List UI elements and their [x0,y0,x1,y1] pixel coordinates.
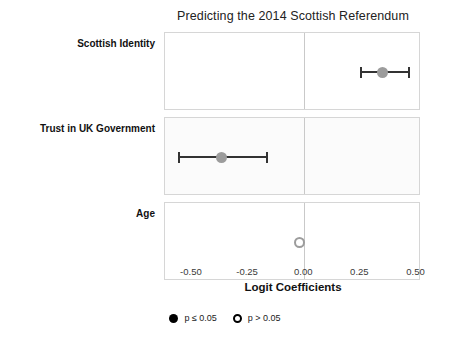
ci-cap-upper [408,67,410,78]
row-label-trust-in-uk-government: Trust in UK Government [0,123,155,134]
panel-scottish-identity [164,32,420,110]
hollow-circle-icon [233,314,242,323]
x-tick-label: -0.25 [236,266,258,277]
panel-trust-in-uk-government [164,117,420,195]
legend-item-significant: p ≤ 0.05 [169,313,216,323]
row-label-age: Age [0,208,155,219]
x-tick-label: 0.50 [406,266,425,277]
estimate-point [377,67,388,78]
estimate-point [294,237,305,248]
zero-reference-line [304,118,305,194]
x-tick-label: 0.00 [294,266,313,277]
legend-label-not-significant: p > 0.05 [248,313,281,323]
legend: p ≤ 0.05 p > 0.05 [0,313,450,323]
filled-circle-icon [169,314,178,323]
plot-panels [164,32,422,264]
chart-root: Predicting the 2014 Scottish Referendum … [0,0,450,352]
legend-item-not-significant: p > 0.05 [233,313,281,323]
legend-label-significant: p ≤ 0.05 [184,313,216,323]
x-axis-ticks: -0.50-0.250.000.250.50 [164,266,422,280]
x-axis-label: Logit Coefficients [164,281,422,293]
zero-reference-line [304,33,305,109]
ci-cap-upper [266,152,268,163]
row-label-scottish-identity: Scottish Identity [0,38,155,49]
page-title: Predicting the 2014 Scottish Referendum [164,9,422,23]
x-tick-label: -0.50 [180,266,202,277]
ci-cap-lower [360,67,362,78]
estimate-point [216,152,227,163]
x-tick-label: 0.25 [350,266,369,277]
ci-cap-lower [178,152,180,163]
